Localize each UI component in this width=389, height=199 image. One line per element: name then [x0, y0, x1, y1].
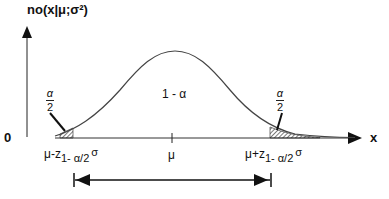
y-axis — [22, 26, 32, 137]
lower-bound-label: μ-z1- α/2σ — [44, 147, 98, 161]
x-axis-label: x — [370, 130, 377, 145]
right-pointer — [277, 113, 282, 130]
normal-curve — [55, 51, 355, 138]
diagram-canvas — [0, 0, 389, 199]
left-tail-label: α 2 — [46, 88, 54, 113]
origin-label: 0 — [4, 130, 11, 145]
right-tail-label: α 2 — [276, 88, 284, 113]
left-pointer — [50, 113, 65, 131]
interval-arrow — [74, 173, 271, 187]
upper-bound-label: μ+z1- α/2σ — [245, 147, 302, 161]
y-axis-label: no(x|μ;σ²) — [27, 2, 88, 17]
center-area-label: 1 - α — [162, 87, 186, 101]
mu-label: μ — [168, 148, 175, 162]
